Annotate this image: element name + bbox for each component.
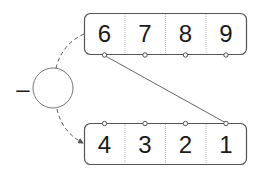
connector-dot	[224, 121, 228, 125]
connector-dot	[102, 121, 106, 125]
connector-dot	[143, 53, 147, 57]
bottom-cell-2: 2	[179, 131, 192, 158]
operator-minus: –	[16, 75, 30, 102]
connector-dot	[183, 53, 187, 57]
connector-dot	[224, 53, 228, 57]
bottom-cell-3: 1	[219, 131, 232, 158]
top-cell-3: 9	[219, 20, 232, 47]
bottom-cell-0: 4	[98, 131, 111, 158]
connector-dot	[183, 121, 187, 125]
top-cell-1: 7	[138, 20, 151, 47]
dashed-flow-bottom-arrow	[57, 109, 83, 143]
diagram-canvas: – 6 7 8 9 4 3 2 1	[0, 0, 261, 177]
top-row-box: 6 7 8 9	[85, 14, 247, 55]
connector-line	[105, 56, 227, 124]
empty-circle	[33, 68, 73, 108]
dashed-flow-top	[56, 34, 84, 68]
top-cell-2: 8	[179, 20, 192, 47]
connector-dot	[102, 53, 106, 57]
bottom-row-box: 4 3 2 1	[85, 124, 247, 165]
connector-dot	[143, 121, 147, 125]
top-cell-0: 6	[98, 20, 111, 47]
bottom-cell-1: 3	[138, 131, 151, 158]
